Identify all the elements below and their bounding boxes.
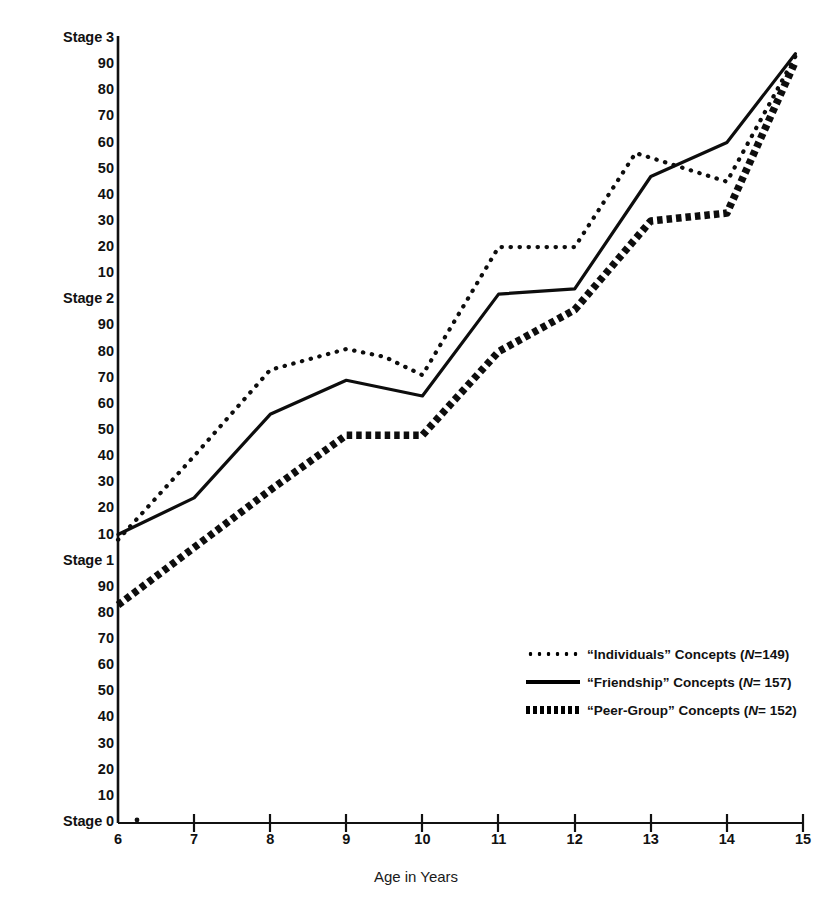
legend-item: “Peer-Group” Concepts (N= 152)	[524, 696, 824, 724]
y-tick-label: 50	[44, 422, 114, 437]
y-tick-label: 40	[44, 187, 114, 202]
series-line-friendship	[118, 54, 795, 535]
x-tick-label: 10	[402, 831, 442, 847]
legend-item: “Friendship” Concepts (N= 157)	[524, 668, 824, 696]
y-tick-label: 60	[44, 396, 114, 411]
chart-legend: “Individuals” Concepts (N=149)“Friendshi…	[524, 640, 824, 724]
y-tick-label: Stage 2	[6, 291, 114, 306]
y-tick-label: 10	[44, 527, 114, 542]
y-tick-label: 50	[44, 683, 114, 698]
y-tick-label: 50	[44, 161, 114, 176]
y-tick-label: 20	[44, 500, 114, 515]
x-tick-label: 6	[98, 831, 138, 847]
x-tick-label: 15	[783, 831, 823, 847]
x-tick-label: 7	[174, 831, 214, 847]
legend-swatch-thick-dashed	[524, 703, 582, 717]
y-tick-label: 20	[44, 239, 114, 254]
legend-item-label: “Friendship” Concepts (N= 157)	[587, 675, 791, 690]
x-axis-title: Age in Years	[0, 868, 832, 885]
legend-item-label: “Peer-Group” Concepts (N= 152)	[587, 703, 797, 718]
series-line-individuals	[118, 56, 795, 540]
y-tick-label: 60	[44, 657, 114, 672]
chart-plot-area	[0, 0, 832, 907]
y-tick-label: 30	[44, 474, 114, 489]
y-tick-label: 80	[44, 344, 114, 359]
series-line-peer-group	[118, 62, 795, 606]
y-tick-label: 30	[44, 213, 114, 228]
x-tick-label: 14	[707, 831, 747, 847]
x-tick-label: 8	[250, 831, 290, 847]
y-tick-label: 40	[44, 709, 114, 724]
y-tick-label: 90	[44, 579, 114, 594]
chart-figure: Stage 3908070605040302010Stage 290807060…	[0, 0, 832, 907]
legend-item-label: “Individuals” Concepts (N=149)	[587, 647, 789, 662]
y-tick-label: 70	[44, 631, 114, 646]
y-axis-tick-labels: Stage 3908070605040302010Stage 290807060…	[0, 0, 114, 907]
y-tick-label: 90	[44, 56, 114, 71]
legend-swatch-solid	[524, 675, 582, 689]
y-tick-label: 80	[44, 82, 114, 97]
y-tick-label: 30	[44, 736, 114, 751]
y-tick-label: Stage 3	[6, 30, 114, 45]
y-tick-label: 70	[44, 370, 114, 385]
y-tick-label: Stage 0	[6, 814, 114, 829]
y-tick-label: 20	[44, 762, 114, 777]
y-tick-label: Stage 1	[6, 553, 114, 568]
y-tick-label: 10	[44, 265, 114, 280]
y-tick-label: 60	[44, 135, 114, 150]
x-tick-label: 13	[631, 831, 671, 847]
origin-mark	[135, 818, 140, 823]
y-tick-label: 70	[44, 108, 114, 123]
x-tick-label: 12	[555, 831, 595, 847]
y-tick-label: 90	[44, 317, 114, 332]
x-tick-label: 11	[479, 831, 519, 847]
y-tick-label: 40	[44, 448, 114, 463]
legend-item: “Individuals” Concepts (N=149)	[524, 640, 824, 668]
x-tick-label: 9	[326, 831, 366, 847]
y-tick-label: 10	[44, 788, 114, 803]
legend-swatch-dotted	[524, 647, 582, 661]
chart-series-layer	[118, 54, 795, 605]
y-tick-label: 80	[44, 605, 114, 620]
